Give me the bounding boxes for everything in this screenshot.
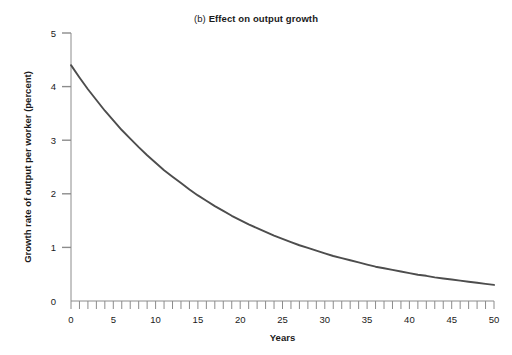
y-tick-label: 2 [51, 188, 56, 199]
x-axis: 05101520253035404550 [68, 301, 499, 325]
x-tick-label: 5 [111, 314, 116, 325]
y-tick-label: 0 [51, 296, 56, 307]
plot-area: 012345 05101520253035404550 YearsGrowth … [0, 0, 512, 355]
axis-titles-group: YearsGrowth rate of output per worker (p… [22, 71, 295, 343]
chart-figure: (b) Effect on output growth 012345 05101… [0, 0, 512, 355]
y-tick-label: 3 [51, 135, 56, 146]
y-tick-label: 4 [51, 81, 56, 92]
y-tick-label: 5 [51, 28, 56, 39]
x-tick-label: 45 [446, 314, 457, 325]
x-tick-label: 35 [362, 314, 373, 325]
data-series-group [71, 65, 494, 285]
x-tick-label: 15 [193, 314, 204, 325]
y-axis: 012345 [51, 28, 71, 307]
x-tick-label: 30 [320, 314, 331, 325]
x-tick-label: 50 [489, 314, 500, 325]
data-curve [71, 65, 494, 285]
x-axis-title: Years [270, 332, 295, 343]
x-tick-label: 40 [404, 314, 415, 325]
y-tick-label: 1 [51, 242, 56, 253]
x-tick-label: 10 [150, 314, 161, 325]
x-tick-label: 25 [277, 314, 288, 325]
x-tick-label: 20 [235, 314, 246, 325]
x-tick-label: 0 [68, 314, 73, 325]
y-axis-title: Growth rate of output per worker (percen… [22, 71, 33, 263]
